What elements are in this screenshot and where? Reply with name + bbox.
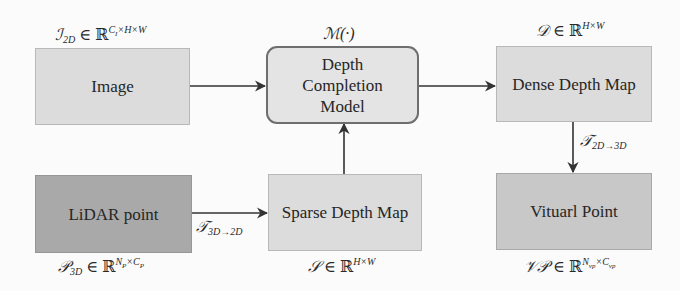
- model-label-line-1: Depth: [322, 54, 364, 75]
- dense-depth-map-node: Dense Depth Map: [496, 46, 652, 122]
- virtual-point-annotation: 𝒱𝒫 ∈ ℝNvp×Cvp: [524, 256, 615, 276]
- transform-2d-to-3d-label: 𝒯2D→3D: [580, 132, 626, 151]
- lidar-point-annotation: 𝒫3D ∈ ℝNP×CP: [58, 256, 144, 277]
- image-annotation: ℐ2D ∈ ℝCI×H×W: [55, 24, 146, 45]
- virtual-point-node: Vituarl Point: [496, 173, 652, 250]
- depth-completion-model-node: Depth Completion Model: [266, 46, 419, 124]
- lidar-point-label: LiDAR point: [68, 204, 158, 225]
- dense-depth-map-annotation: 𝒟 ∈ ℝH×W: [536, 20, 604, 40]
- virtual-point-label: Vituarl Point: [530, 201, 617, 222]
- sparse-depth-map-label: Sparse Depth Map: [282, 202, 409, 223]
- transform-3d-to-2d-label: 𝒯3D→2D: [196, 218, 242, 237]
- sparse-depth-map-annotation: 𝒮 ∈ ℝH×W: [308, 256, 375, 276]
- image-node: Image: [35, 48, 190, 125]
- lidar-point-node: LiDAR point: [35, 175, 192, 253]
- model-label-line-2: Completion: [302, 75, 382, 96]
- model-annotation: ℳ(·): [323, 24, 355, 43]
- dense-depth-map-label: Dense Depth Map: [512, 74, 636, 95]
- image-node-label: Image: [91, 76, 133, 97]
- model-label-line-3: Model: [320, 96, 364, 117]
- sparse-depth-map-node: Sparse Depth Map: [268, 174, 422, 251]
